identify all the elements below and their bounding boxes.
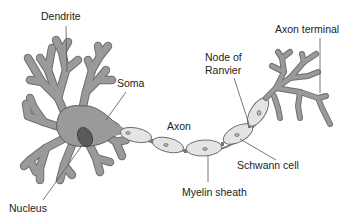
schwann-leader [240, 139, 276, 160]
soma-leader [106, 92, 126, 120]
label-axon-terminal: Axon terminal [275, 23, 339, 35]
label-dendrite: Dendrite [41, 10, 81, 22]
label-axon: Axon [167, 120, 191, 132]
label-schwann-cell: Schwann cell [237, 159, 299, 171]
label-nucleus: Nucleus [9, 202, 47, 214]
neuron-diagram: Dendrite Soma Axon Node of Ranvier Axon … [0, 0, 360, 224]
label-myelin-sheath: Myelin sheath [182, 186, 247, 198]
label-node-of-ranvier-1: Node of [205, 51, 242, 63]
label-node-of-ranvier-2: Ranvier [205, 64, 242, 76]
label-soma: Soma [117, 77, 145, 89]
myelin-segments [119, 94, 273, 156]
ranvier-leader [234, 78, 249, 124]
